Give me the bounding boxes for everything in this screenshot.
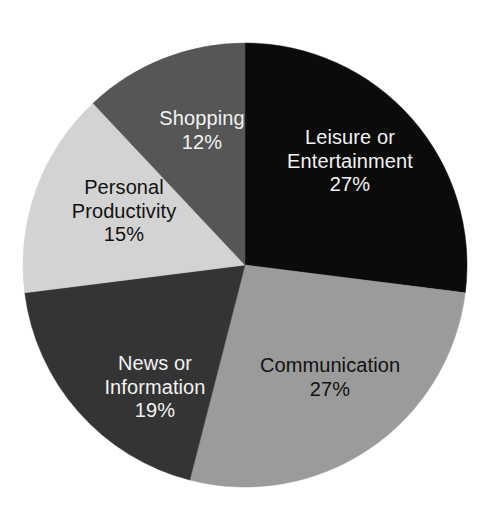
pie-chart: Leisure or Entertainment 27% Communicati… — [0, 0, 489, 517]
pie-slice-leisure — [245, 43, 467, 293]
pie-chart-graphic — [0, 0, 489, 517]
pie-slice-group — [23, 43, 467, 487]
